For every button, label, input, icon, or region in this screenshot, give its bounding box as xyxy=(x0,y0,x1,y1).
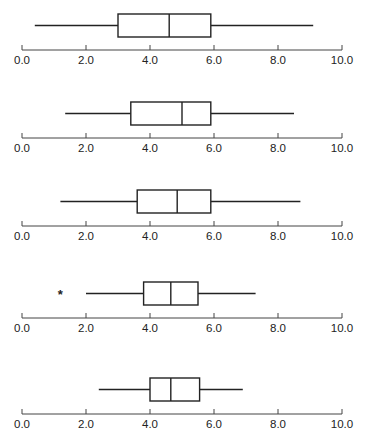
iqr-box xyxy=(131,102,211,125)
x-tick-label: 8.0 xyxy=(270,418,286,430)
boxplot-svg: 0.02.04.06.08.010.0 xyxy=(0,364,367,439)
x-tick-label: 0.0 xyxy=(14,322,30,334)
x-tick-label: 10.0 xyxy=(331,322,353,334)
x-tick-label: 8.0 xyxy=(270,230,286,242)
x-tick-label: 4.0 xyxy=(142,418,158,430)
x-tick-label: 2.0 xyxy=(78,230,94,242)
x-tick-label: 4.0 xyxy=(142,230,158,242)
x-tick-label: 10.0 xyxy=(331,230,353,242)
outlier-marker: * xyxy=(58,287,64,302)
boxplot-panel-3: 0.02.04.06.08.010.0 xyxy=(0,176,367,251)
boxplot-svg: 0.02.04.06.08.010.0 xyxy=(0,88,367,163)
x-tick-label: 2.0 xyxy=(78,142,94,154)
x-tick-label: 8.0 xyxy=(270,142,286,154)
x-tick-label: 4.0 xyxy=(142,322,158,334)
iqr-box xyxy=(150,378,200,401)
x-tick-label: 6.0 xyxy=(206,322,222,334)
x-tick-label: 0.0 xyxy=(14,54,30,66)
boxplot-panel-1: 0.02.04.06.08.010.0 xyxy=(0,0,367,75)
boxplot-panel-2: 0.02.04.06.08.010.0 xyxy=(0,88,367,163)
iqr-box xyxy=(137,190,211,213)
x-tick-label: 0.0 xyxy=(14,142,30,154)
x-tick-label: 10.0 xyxy=(331,418,353,430)
boxplot-svg: 0.02.04.06.08.010.0 xyxy=(0,0,367,75)
x-tick-label: 10.0 xyxy=(331,54,353,66)
boxplot-panel-4: *0.02.04.06.08.010.0 xyxy=(0,268,367,343)
x-tick-label: 2.0 xyxy=(78,54,94,66)
x-tick-label: 0.0 xyxy=(14,230,30,242)
boxplot-panel-5: 0.02.04.06.08.010.0 xyxy=(0,364,367,439)
x-tick-label: 2.0 xyxy=(78,418,94,430)
boxplot-svg: *0.02.04.06.08.010.0 xyxy=(0,268,367,343)
x-tick-label: 6.0 xyxy=(206,54,222,66)
x-tick-label: 6.0 xyxy=(206,230,222,242)
x-tick-label: 6.0 xyxy=(206,418,222,430)
x-tick-label: 4.0 xyxy=(142,142,158,154)
x-tick-label: 8.0 xyxy=(270,54,286,66)
boxplot-svg: 0.02.04.06.08.010.0 xyxy=(0,176,367,251)
x-tick-label: 10.0 xyxy=(331,142,353,154)
x-tick-label: 4.0 xyxy=(142,54,158,66)
x-tick-label: 6.0 xyxy=(206,142,222,154)
x-tick-label: 8.0 xyxy=(270,322,286,334)
x-tick-label: 2.0 xyxy=(78,322,94,334)
x-tick-label: 0.0 xyxy=(14,418,30,430)
iqr-box xyxy=(118,14,211,37)
